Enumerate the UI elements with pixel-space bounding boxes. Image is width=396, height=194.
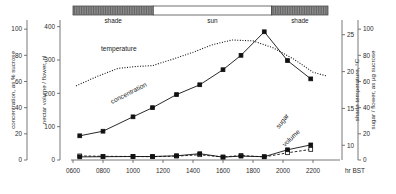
x-tick-label: 1000 — [126, 167, 141, 174]
data-point-concentration — [262, 30, 266, 34]
x-tick-label: 0600 — [66, 167, 81, 174]
volume-axis-title: nectar volume / flower, nl — [40, 56, 47, 124]
concentration-axis-tick-label: 0 — [18, 156, 22, 163]
data-point-sugar — [239, 154, 243, 158]
x-tick-label: 1400 — [186, 167, 201, 174]
data-point-concentration — [198, 83, 202, 87]
x-tick-label: 2000 — [276, 167, 291, 174]
chart-canvas: shadesunshade060008001000120014001600180… — [0, 0, 396, 194]
data-point-concentration — [151, 106, 155, 110]
shade-bar-label-1: sun — [207, 17, 218, 24]
data-point-sugar — [262, 155, 266, 159]
annotation-sugar: sugar — [274, 112, 291, 131]
nectar-chart-figure: shadesunshade060008001000120014001600180… — [0, 0, 396, 194]
volume-axis-tick-label: 0 — [51, 156, 55, 163]
volume-axis-tick-label: 400 — [44, 23, 55, 30]
temperature-axis-tick-label: 10 — [347, 142, 355, 149]
temperature-axis-tick-label: 25 — [347, 31, 355, 38]
concentration-axis-title: concentration, as % sucrose — [9, 51, 16, 129]
data-point-concentration — [221, 68, 225, 72]
data-point-concentration — [286, 59, 290, 63]
concentration-axis-tick-label: 80 — [15, 52, 23, 59]
data-point-concentration — [175, 93, 179, 97]
annotation-temperature: temperature — [101, 45, 137, 53]
x-tick-label: 2200 — [306, 167, 321, 174]
x-axis-unit-label: hr BST — [345, 167, 365, 174]
temperature-axis-title: shade temperature, °C — [353, 58, 360, 121]
sugar-axis-tick-label: 0 — [363, 156, 367, 163]
x-tick-label: 0800 — [96, 167, 111, 174]
x-tick-label: 1800 — [246, 167, 261, 174]
data-point-concentration — [78, 134, 82, 138]
concentration-axis-tick-label: 60 — [15, 78, 23, 85]
concentration-axis-tick-label: 40 — [15, 104, 23, 111]
data-point-sugar — [78, 155, 82, 159]
concentration-axis-tick-label: 100 — [11, 25, 22, 32]
data-point-sugar — [131, 155, 135, 159]
data-point-sugar — [221, 155, 225, 159]
annotation-volume: volume — [281, 128, 301, 148]
data-point-sugar — [101, 155, 105, 159]
data-point-volume — [309, 148, 313, 152]
annotation-concentration: concentration — [109, 81, 148, 105]
shade-bar-label-2: shade — [291, 17, 309, 24]
shade-bar-label-0: shade — [104, 17, 122, 24]
sugar-axis-title: sugar / flower, as µg sucrose — [369, 50, 376, 129]
data-point-sugar — [175, 154, 179, 158]
x-tick-label: 1200 — [156, 167, 171, 174]
data-point-concentration — [309, 77, 313, 81]
data-point-sugar — [151, 155, 155, 159]
x-tick-label: 1600 — [216, 167, 231, 174]
concentration-axis-tick-label: 20 — [15, 130, 23, 137]
sugar-axis-tick-label: 100 — [363, 25, 374, 32]
sugar-axis-tick-label: 20 — [363, 130, 371, 137]
shade-bar-segment-1 — [153, 6, 272, 15]
data-point-concentration — [101, 129, 105, 133]
data-point-sugar — [286, 148, 290, 152]
data-point-concentration — [239, 53, 243, 57]
data-point-concentration — [131, 115, 135, 119]
data-point-sugar — [309, 143, 313, 147]
data-point-sugar — [198, 152, 202, 156]
